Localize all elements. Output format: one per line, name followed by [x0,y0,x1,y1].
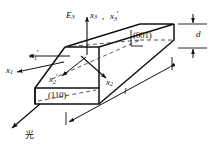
label-x3-prime: x3′ [110,11,119,22]
label-dimension-d: d [196,30,201,39]
label-x2: x2 [106,78,113,87]
label-face-001: (001) [133,31,152,40]
top-face-outline [65,24,174,47]
label-light-cjk: 光 [25,131,34,140]
axis-x2-prime-line [62,57,86,76]
l-dim-line [69,67,170,122]
label-x3: x3 [90,11,97,20]
figure-root: E3 x3 , x3′ (001) x1′ x1 x2′ x2 (110) d … [0,0,212,146]
light-propagation-arrow [12,104,40,128]
axis-x2 [81,56,106,78]
front-end-face [35,88,99,104]
axis-x2-line [81,56,106,78]
edge-bottom-long [99,40,174,104]
label-dimension-l: l [124,87,127,96]
axis-x1 [17,62,64,72]
label-axis-separator: , [102,12,104,21]
dashed-face-diagonal [38,90,96,101]
label-face-110: (110) [48,91,66,100]
dimension-length-l [66,57,172,125]
axis-x1-line [17,62,64,72]
label-x2-prime: x2′ [49,74,58,85]
axis-x2-prime [62,57,86,76]
dimension-thickness-d [178,14,207,58]
label-E3: E3 [66,11,75,20]
light-arrow-line [12,104,40,128]
label-x1-prime: x1′ [30,50,39,61]
label-x1: x1 [6,66,13,75]
crystal-bar-diagram [0,0,212,146]
